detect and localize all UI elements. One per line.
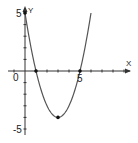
origin-label: 0 (13, 72, 19, 83)
y-tick-label-neg5: -5 (13, 124, 22, 135)
parabola-curve (25, 13, 91, 117)
y-tick-label-5: 5 (16, 8, 22, 19)
chart-canvas: 0 5 5 -5 X Y (0, 0, 138, 143)
point-vertex (56, 116, 60, 120)
marked-points (23, 11, 82, 119)
x-axis-label: X (126, 59, 132, 68)
y-axis-label: Y (28, 6, 34, 15)
point-y-intercept (23, 11, 27, 15)
point-root (34, 69, 38, 73)
x-tick-label-5: 5 (77, 73, 83, 84)
